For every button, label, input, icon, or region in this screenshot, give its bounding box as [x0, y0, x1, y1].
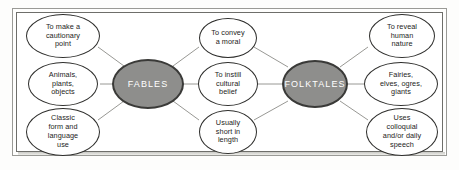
connector-classic-fables: [98, 101, 124, 120]
connector-moral-folktales: [254, 47, 288, 67]
connector-folktales-colloquial: [340, 101, 368, 120]
connector-folktales-human: [340, 47, 368, 67]
node-classic-form-label: Classic form and language use: [45, 114, 81, 150]
node-human-nature[interactable]: To reveal human nature: [369, 14, 435, 58]
node-cultural-belief[interactable]: To instill cultural belief: [198, 62, 258, 106]
node-fairies-label: Fairies, elves, ogres, giants: [377, 71, 425, 98]
connector-short-folktales: [254, 101, 288, 120]
node-colloquial[interactable]: Uses colloquial and/or daily speech: [366, 108, 438, 156]
connector-cautionary-fables: [98, 47, 124, 66]
node-short-length[interactable]: Usually short in length: [199, 110, 257, 154]
node-cultural-belief-label: To instill cultural belief: [212, 71, 244, 98]
node-colloquial-label: Uses colloquial and/or daily speech: [380, 114, 424, 150]
node-moral-label: To convey a moral: [208, 29, 247, 47]
hub-folktales-label: FOLKTALES: [281, 79, 348, 89]
node-cautionary-label: To make a cautionary point: [43, 23, 83, 50]
node-cautionary[interactable]: To make a cautionary point: [26, 14, 100, 58]
node-moral[interactable]: To convey a moral: [199, 18, 257, 58]
node-fairies[interactable]: Fairies, elves, ogres, giants: [364, 62, 438, 106]
connector-fables-moral: [173, 47, 199, 66]
node-animals-label: Animals, plants, objects: [46, 71, 80, 98]
hub-fables-label: FABLES: [125, 79, 172, 89]
node-human-nature-label: To reveal human nature: [384, 23, 420, 50]
hub-fables[interactable]: FABLES: [112, 59, 184, 109]
node-classic-form[interactable]: Classic form and language use: [26, 108, 100, 156]
concept-map-diagram: To make a cautionary point Animals, plan…: [0, 0, 459, 170]
node-animals[interactable]: Animals, plants, objects: [28, 62, 98, 106]
connector-fables-short: [173, 101, 199, 120]
hub-folktales[interactable]: FOLKTALES: [282, 60, 348, 108]
node-short-length-label: Usually short in length: [213, 119, 243, 146]
